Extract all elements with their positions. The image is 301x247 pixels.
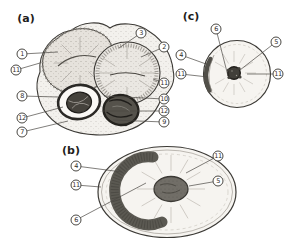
panel-c-callout-4: 4 xyxy=(176,50,187,61)
panel-a-callout-7: 7 xyxy=(17,127,28,138)
panel-c-label: (c) xyxy=(183,10,200,23)
panel-c-callout-5: 5 xyxy=(271,37,282,48)
panel-b-label: (b) xyxy=(62,144,80,157)
figure-illustration xyxy=(0,0,301,247)
panel-b-callout-4: 4 xyxy=(71,161,82,172)
panel-a-callout-12: 12 xyxy=(17,113,28,124)
panel-b-callout-11: 11 xyxy=(71,180,82,191)
panel-a-label: (a) xyxy=(17,12,34,25)
panel-a-callout-1: 1 xyxy=(17,49,28,60)
panel-a-callout-3: 3 xyxy=(136,28,147,39)
figure-canvas: (a) (b) (c) 1 11 8 12 7 3 2 11 10 12 9 4… xyxy=(0,0,301,247)
panel-b-callout-6: 6 xyxy=(71,215,82,226)
panel-a-drawing xyxy=(16,23,174,135)
panel-b-callout-5: 5 xyxy=(213,176,224,187)
panel-b-drawing xyxy=(76,147,236,238)
panel-c-callout-11b: 11 xyxy=(273,69,284,80)
panel-c-drawing xyxy=(181,29,278,108)
panel-a-callout-12b: 12 xyxy=(159,106,170,117)
panel-a-callout-8: 8 xyxy=(17,91,28,102)
panel-c-callout-11: 11 xyxy=(176,69,187,80)
panel-a-callout-9: 9 xyxy=(159,117,170,128)
panel-a-callout-2: 2 xyxy=(159,42,170,53)
panel-b-callout-11b: 11 xyxy=(213,151,224,162)
panel-c-callout-6: 6 xyxy=(211,24,222,35)
panel-a-callout-10: 10 xyxy=(159,94,170,105)
panel-a-callout-11: 11 xyxy=(11,65,22,76)
panel-a-callout-11b: 11 xyxy=(159,78,170,89)
